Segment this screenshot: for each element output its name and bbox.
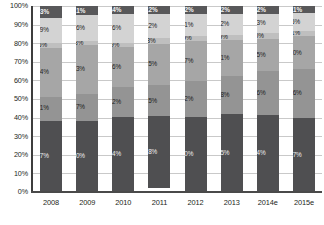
bar-segment: 16.2% bbox=[112, 87, 134, 117]
bar-segment-label: 41.0% bbox=[185, 151, 194, 157]
bar-segment-label: 23.6% bbox=[257, 90, 266, 96]
bar-segment: 38.0% bbox=[76, 121, 98, 192]
bar-2008[interactable]: 6.3%13.9%2.6%26.4%13.1%38.7% bbox=[40, 6, 62, 192]
bar-segment: 38.7% bbox=[40, 121, 62, 192]
bar-segment-label: 26.3% bbox=[76, 66, 85, 72]
bar-segment: 9.5% bbox=[293, 13, 315, 30]
y-axis-tick-label: 50% bbox=[14, 95, 28, 102]
bar-segment-label: 4.4% bbox=[112, 7, 121, 13]
bar-segment: 41.0% bbox=[185, 117, 207, 192]
bar-segment-label: 4.2% bbox=[185, 7, 194, 13]
bar-segment: 20.8% bbox=[221, 76, 243, 115]
bar-segment-label: 3.1% bbox=[293, 31, 300, 37]
x-axis: 2008200920102011201220132014e2015e bbox=[33, 198, 322, 218]
x-axis-line bbox=[31, 191, 322, 193]
bar-segment-label: 38.0% bbox=[76, 153, 85, 159]
bar-segment-label: 2.9% bbox=[221, 35, 228, 40]
bar-segment-label: 4.1% bbox=[293, 7, 302, 13]
bar-2010[interactable]: 4.4%15.6%1.9%21.6%16.2%40.4% bbox=[112, 6, 134, 192]
bar-segment-label: 2.3% bbox=[76, 41, 83, 45]
bar-2011[interactable]: 4.2%13.2%2.8%22.5%16.5%38.8% bbox=[148, 6, 170, 192]
bar-segment: 13.9% bbox=[40, 18, 62, 44]
bar-segment-label: 19.1% bbox=[221, 55, 230, 61]
bar-segment: 15.6% bbox=[112, 14, 134, 43]
y-axis-tick-label: 0% bbox=[18, 188, 28, 195]
bar-segment-label: 38.7% bbox=[40, 153, 49, 159]
y-axis-tick-label: 40% bbox=[14, 114, 28, 121]
bar-2014e[interactable]: 4.2%10.3%3.0%17.5%23.6%41.4% bbox=[257, 6, 279, 192]
bar-segment: 40.7% bbox=[293, 118, 315, 192]
bar-segment: 10.3% bbox=[257, 14, 279, 33]
bar-segment-label: 2.9% bbox=[185, 36, 192, 41]
x-axis-tick-label: 2015e bbox=[282, 198, 324, 207]
bar-segment: 4.2% bbox=[185, 6, 207, 14]
bar-segment: 5.1% bbox=[76, 6, 98, 15]
bar-segment-label: 5.1% bbox=[76, 8, 85, 14]
bar-segment-label: 14.7% bbox=[76, 104, 85, 110]
bar-2013[interactable]: 4.2%11.2%2.9%19.1%20.8%41.5% bbox=[221, 6, 243, 192]
bar-segment: 19.1% bbox=[221, 40, 243, 76]
y-axis-tick-label: 20% bbox=[14, 151, 28, 158]
bar-segment-label: 40.7% bbox=[293, 152, 302, 158]
bar-segment: 4.2% bbox=[148, 6, 170, 14]
bar-segment: 13.2% bbox=[148, 14, 170, 39]
y-axis-tick-label: 90% bbox=[14, 21, 28, 28]
bar-segment-label: 4.2% bbox=[257, 7, 266, 13]
bar-segment: 4.1% bbox=[293, 6, 315, 13]
bar-segment: 38.8% bbox=[148, 116, 170, 188]
bar-segment-label: 2.6% bbox=[40, 43, 47, 48]
bar-segment-label: 41.4% bbox=[257, 150, 266, 156]
bar-segment: 41.5% bbox=[221, 114, 243, 191]
bar-segment-label: 22.5% bbox=[148, 61, 157, 67]
bar-segment-label: 16.2% bbox=[112, 99, 121, 105]
stacked-bar-chart: 100%90%80%70%60%50%40%30%20%10%0% 6.3%13… bbox=[0, 0, 324, 225]
bar-2012[interactable]: 4.2%12.1%2.9%21.7%19.2%41.0% bbox=[185, 6, 207, 192]
bar-segment: 4.2% bbox=[257, 6, 279, 14]
bar-segment: 26.6% bbox=[293, 69, 315, 118]
bar-segment-label: 19.2% bbox=[185, 96, 194, 102]
bar-segment: 14.7% bbox=[76, 94, 98, 121]
bar-segment-label: 13.2% bbox=[148, 23, 157, 29]
bar-segment-label: 9.5% bbox=[293, 19, 300, 25]
bar-2015e[interactable]: 4.1%9.5%3.1%18.0%26.6%40.7% bbox=[293, 6, 315, 192]
bar-segment-label: 1.9% bbox=[112, 43, 119, 47]
bar-segment-label: 4.2% bbox=[148, 7, 157, 13]
bar-segment-label: 21.7% bbox=[185, 58, 194, 64]
bar-segment: 41.4% bbox=[257, 115, 279, 192]
bar-segment-label: 16.5% bbox=[148, 98, 157, 104]
bar-segment-label: 12.1% bbox=[185, 22, 194, 28]
bar-segment-label: 38.8% bbox=[148, 149, 157, 155]
y-axis-tick-label: 100% bbox=[10, 2, 28, 9]
bar-segment: 21.7% bbox=[185, 41, 207, 81]
bar-segment-label: 13.1% bbox=[40, 105, 49, 111]
bar-segment: 18.0% bbox=[293, 36, 315, 69]
bar-segment: 17.5% bbox=[257, 39, 279, 72]
bar-segment-label: 18.0% bbox=[293, 50, 302, 56]
bar-segment-label: 2.8% bbox=[148, 38, 155, 43]
bar-segment: 12.1% bbox=[185, 14, 207, 36]
bar-segment-label: 20.8% bbox=[221, 92, 230, 98]
bar-segment-label: 26.6% bbox=[293, 90, 302, 96]
bar-segment: 40.4% bbox=[112, 117, 134, 192]
bar-segment-label: 13.6% bbox=[76, 25, 85, 31]
bar-segment-label: 11.2% bbox=[221, 21, 229, 27]
plot-area: 6.3%13.9%2.6%26.4%13.1%38.7%5.1%13.6%2.3… bbox=[33, 6, 322, 192]
bar-segment: 26.3% bbox=[76, 45, 98, 94]
bar-segment: 21.6% bbox=[112, 47, 134, 87]
bar-segment-label: 3.0% bbox=[257, 33, 264, 39]
bar-segment: 23.6% bbox=[257, 71, 279, 115]
bar-segment-label: 21.6% bbox=[112, 64, 121, 70]
y-axis-tick-label: 30% bbox=[14, 133, 28, 140]
bar-segment-label: 4.2% bbox=[221, 7, 230, 13]
bar-segment-label: 15.6% bbox=[112, 25, 121, 31]
bar-segment-label: 13.9% bbox=[40, 27, 49, 33]
bar-2009[interactable]: 5.1%13.6%2.3%26.3%14.7%38.0% bbox=[76, 6, 98, 192]
bar-segment-label: 17.5% bbox=[257, 52, 266, 58]
bar-segment: 22.5% bbox=[148, 44, 170, 86]
bar-segment: 11.2% bbox=[221, 14, 243, 35]
bar-segment: 13.6% bbox=[76, 15, 98, 40]
bar-segment: 4.2% bbox=[221, 6, 243, 14]
bar-segment: 16.5% bbox=[148, 85, 170, 116]
y-axis-tick-label: 60% bbox=[14, 77, 28, 84]
bar-segment-label: 10.3% bbox=[257, 20, 266, 26]
